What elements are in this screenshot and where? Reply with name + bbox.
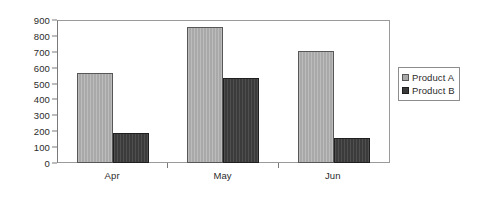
bar-group xyxy=(58,21,168,163)
bar xyxy=(298,51,334,163)
bar xyxy=(77,73,113,163)
x-axis-ticks xyxy=(57,163,390,169)
x-axis-tick-mark xyxy=(278,163,279,168)
y-axis-tick-mark xyxy=(52,51,57,52)
y-axis-tick-label: 700 xyxy=(34,46,50,57)
x-axis-tick-label: Apr xyxy=(105,170,120,181)
y-axis-tick-label: 500 xyxy=(34,78,50,89)
legend-entry: Product A xyxy=(402,71,455,84)
legend-entry: Product B xyxy=(402,84,455,97)
y-axis-tick-mark xyxy=(52,131,57,132)
legend-swatch-icon xyxy=(402,74,409,81)
x-axis-tick-mark xyxy=(167,163,168,168)
legend-swatch-icon xyxy=(402,87,409,94)
bar xyxy=(223,78,259,163)
y-axis-tick-mark xyxy=(52,20,57,21)
legend-label: Product B xyxy=(412,85,455,96)
bars-layer xyxy=(58,21,389,163)
x-axis-tick-label: Jun xyxy=(325,170,341,181)
y-axis: 0100200300400500600700800900 xyxy=(0,20,50,163)
bar xyxy=(334,138,370,163)
bar xyxy=(187,27,223,163)
y-axis-tick-label: 400 xyxy=(34,94,50,105)
y-axis-tick-label: 600 xyxy=(34,62,50,73)
y-axis-tick-label: 800 xyxy=(34,30,50,41)
y-axis-tick-label: 300 xyxy=(34,110,50,121)
x-axis: AprMayJun xyxy=(57,170,390,186)
x-axis-tick-label: May xyxy=(213,170,231,181)
bar xyxy=(113,133,149,163)
y-axis-tick-mark xyxy=(52,99,57,100)
y-axis-tick-label: 100 xyxy=(34,142,50,153)
y-axis-tick-mark xyxy=(52,83,57,84)
chart-legend: Product AProduct B xyxy=(398,67,460,101)
bar-chart: 0100200300400500600700800900 AprMayJun P… xyxy=(0,0,483,201)
y-axis-tick-mark xyxy=(52,67,57,68)
y-axis-tick-label: 0 xyxy=(45,158,50,169)
y-axis-tick-mark xyxy=(52,115,57,116)
y-axis-tick-mark xyxy=(52,147,57,148)
bar-group xyxy=(168,21,278,163)
y-axis-tick-label: 900 xyxy=(34,15,50,26)
y-axis-tick-mark xyxy=(52,35,57,36)
y-axis-tick-label: 200 xyxy=(34,126,50,137)
bar-group xyxy=(279,21,389,163)
legend-label: Product A xyxy=(412,72,454,83)
